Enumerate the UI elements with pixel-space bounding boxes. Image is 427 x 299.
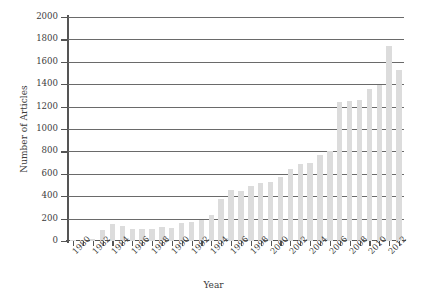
bar <box>367 89 372 241</box>
y-axis-tick <box>61 17 68 18</box>
bar <box>258 183 263 241</box>
x-axis-title: Year <box>0 280 427 290</box>
y-axis-tick <box>61 107 68 108</box>
y-axis-tick <box>61 196 68 197</box>
bar <box>288 169 293 241</box>
y-axis-tick-label: 1600 <box>2 57 58 66</box>
y-axis-tick-label: 600 <box>2 169 58 178</box>
bar-series <box>68 17 404 241</box>
y-axis-tick-label: 0 <box>2 236 58 245</box>
y-axis-tick <box>61 39 68 40</box>
bar <box>347 101 352 241</box>
y-axis-tick <box>61 129 68 130</box>
y-axis-tick-label: 1000 <box>2 124 58 133</box>
bar <box>337 102 342 241</box>
bar <box>248 186 253 241</box>
bar <box>209 215 214 241</box>
bar <box>386 46 391 241</box>
y-axis-tick-label: 1400 <box>2 79 58 88</box>
bar <box>327 151 332 241</box>
y-axis-tick-labels: 0200400600800100012001400160018002000 <box>0 0 58 299</box>
y-axis-tick <box>61 241 68 242</box>
bar <box>278 177 283 241</box>
y-axis-tick <box>61 151 68 152</box>
y-axis-tick-label: 1800 <box>2 34 58 43</box>
bar <box>130 229 135 241</box>
bar <box>298 164 303 241</box>
bar <box>189 222 194 241</box>
y-axis-tick <box>61 174 68 175</box>
bar <box>317 155 322 241</box>
y-axis-tick <box>61 84 68 85</box>
y-axis-tick <box>61 219 68 220</box>
bar <box>396 70 401 241</box>
y-axis-tick-label: 400 <box>2 191 58 200</box>
y-axis-tick-label: 2000 <box>2 12 58 21</box>
y-axis-tick-label: 800 <box>2 146 58 155</box>
bar <box>228 190 233 241</box>
bar <box>268 182 273 241</box>
bar <box>377 85 382 241</box>
y-axis-tick-label: 1200 <box>2 102 58 111</box>
bar <box>307 163 312 241</box>
bar <box>357 100 362 241</box>
y-axis-tick-label: 200 <box>2 214 58 223</box>
bar-chart-figure: Number of Articles Year 0200400600800100… <box>0 0 427 299</box>
y-axis-tick <box>61 62 68 63</box>
